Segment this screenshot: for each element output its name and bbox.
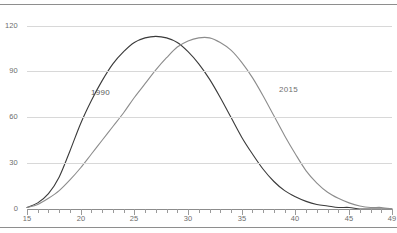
x-tick-label-40: 40 [291,214,300,223]
x-tick-38 [274,209,275,213]
y-tick-label-0: 0 [14,204,18,213]
x-tick-27 [156,209,157,213]
gridline-120 [27,26,392,27]
x-tick-31 [199,209,200,213]
x-tick-36 [252,209,253,213]
y-tick-label-30: 30 [9,158,18,167]
y-tick-label-120: 120 [5,21,18,30]
x-tick-42 [317,209,318,213]
x-tick-label-15: 15 [23,214,32,223]
x-tick-label-25: 25 [130,214,139,223]
x-tick-28 [167,209,168,213]
x-tick-47 [371,209,372,213]
series-line-2015 [27,37,392,209]
x-tick-33 [220,209,221,213]
x-tick-16 [38,209,39,213]
gridline-60 [27,117,392,118]
x-tick-37 [263,209,264,213]
x-tick-23 [113,209,114,213]
gridline-30 [27,163,392,164]
x-tick-39 [285,209,286,213]
series-line-1990 [27,36,392,209]
x-tick-label-35: 35 [238,214,247,223]
x-tick-32 [210,209,211,213]
x-tick-18 [59,209,60,213]
x-tick-43 [328,209,329,213]
x-tick-17 [48,209,49,213]
series-annotation-2015: 2015 [279,85,298,94]
y-tick-label-60: 60 [9,112,18,121]
gridline-90 [27,71,392,72]
series-curves [27,18,392,209]
x-tick-24 [124,209,125,213]
x-tick-label-30: 30 [184,214,193,223]
figure-bottom-rule [0,227,397,228]
plot-area: 0306090120152025303540454919902015 [27,18,392,209]
x-tick-label-20: 20 [77,214,86,223]
x-tick-label-49: 49 [388,214,397,223]
figure-top-rule [0,4,397,5]
x-tick-21 [91,209,92,213]
x-tick-label-45: 45 [345,214,354,223]
x-tick-22 [102,209,103,213]
x-tick-29 [177,209,178,213]
x-tick-26 [145,209,146,213]
x-tick-19 [70,209,71,213]
x-tick-48 [381,209,382,213]
chart-figure: 0306090120152025303540454919902015 [0,0,397,233]
x-tick-44 [338,209,339,213]
y-tick-label-90: 90 [9,66,18,75]
x-tick-34 [231,209,232,213]
x-tick-41 [306,209,307,213]
x-tick-46 [360,209,361,213]
series-annotation-1990: 1990 [91,88,110,97]
